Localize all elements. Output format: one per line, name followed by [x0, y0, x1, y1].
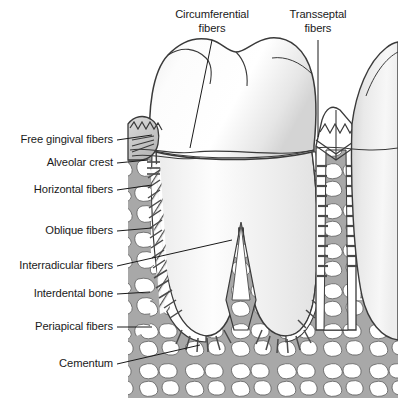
- anatomy-illustration: [0, 0, 398, 398]
- tooth-roots: [156, 152, 318, 336]
- label-circumferential-fibers: Circumferential fibers: [175, 8, 249, 35]
- label-free-gingival-fibers: Free gingival fibers: [20, 133, 113, 147]
- label-interdental-bone: Interdental bone: [34, 287, 113, 301]
- label-line-2: fibers: [290, 22, 347, 36]
- label-line-2: fibers: [175, 22, 249, 36]
- label-line-1: Transseptal: [290, 8, 347, 22]
- label-interradicular-fibers: Interradicular fibers: [19, 259, 113, 273]
- label-cementum: Cementum: [59, 357, 113, 371]
- tooth-crown: [150, 38, 316, 160]
- label-periapical-fibers: Periapical fibers: [35, 320, 113, 334]
- adjacent-tooth: [351, 42, 398, 340]
- label-oblique-fibers: Oblique fibers: [45, 224, 113, 238]
- label-horizontal-fibers: Horizontal fibers: [34, 183, 113, 197]
- label-line-1: Circumferential: [175, 8, 249, 22]
- label-transseptal-fibers: Transseptal fibers: [290, 8, 347, 35]
- label-alveolar-crest: Alveolar crest: [47, 156, 113, 170]
- periodontal-fiber-diagram: Circumferential fibers Transseptal fiber…: [0, 0, 398, 398]
- interdental-septum-right: [316, 107, 357, 330]
